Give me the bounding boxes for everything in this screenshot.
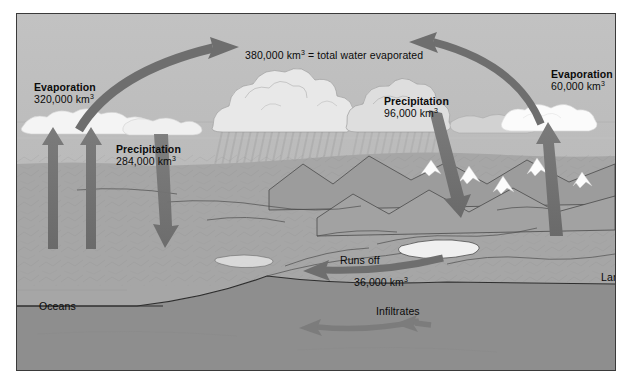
evaporation-ocean-value: 320,000 km3 [34,93,96,105]
label-oceans: Oceans [39,300,76,312]
label-evaporation-ocean: Evaporation 320,000 km3 [34,81,96,106]
label-runs-off-value: 36,000 km3 [354,276,408,288]
label-total-water-evaporated: 380,000 km3 = total water evaporated [245,49,423,61]
superscript-3: 3 [172,155,176,162]
total-evaporated-suffix: = total water evaporated [308,49,423,61]
precipitation-ocean-title: Precipitation [116,143,181,155]
page-root: Evaporation 320,000 km3 Precipitation 28… [0,0,632,381]
superscript-3: 3 [90,93,94,100]
label-precipitation-land: Precipitation 96,000 km3 [384,95,449,120]
water-cycle-illustration [17,14,615,370]
precipitation-ocean-value: 284,000 km3 [116,155,181,167]
label-evaporation-land: Evaporation 60,000 km3 [551,68,613,93]
superscript-3: 3 [601,80,605,87]
label-infiltrates: Infiltrates [376,305,420,317]
precipitation-land-value: 96,000 km3 [384,107,449,119]
water-cycle-diagram: Evaporation 320,000 km3 Precipitation 28… [16,13,616,371]
superscript-3: 3 [301,49,305,56]
evaporation-land-value: 60,000 km3 [551,80,613,92]
evaporation-land-title: Evaporation [551,68,613,80]
superscript-3: 3 [404,276,408,283]
label-precipitation-ocean: Precipitation 284,000 km3 [116,143,181,168]
label-runs-off: Runs off [340,254,380,266]
evaporation-ocean-title: Evaporation [34,81,96,93]
label-land: Land [601,271,616,283]
total-evaporated-value: 380,000 km [245,49,301,61]
precipitation-land-title: Precipitation [384,95,449,107]
superscript-3: 3 [434,107,438,114]
